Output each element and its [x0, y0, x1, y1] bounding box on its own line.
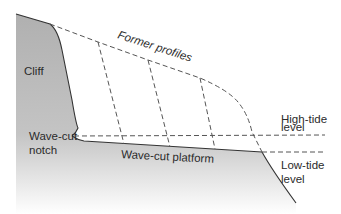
high-tide-line	[74, 135, 325, 136]
low-tide-label-line2: level	[281, 173, 305, 185]
wave-cut-notch-label-line2: notch	[29, 144, 57, 156]
wave-cut-notch-label-line1: Wave-cut	[29, 130, 78, 142]
high-tide-label-line2: level	[281, 121, 305, 133]
former-cliff-face-3	[200, 78, 215, 149]
low-tide-label-line1: Low-tide	[281, 159, 324, 171]
wave-cut-platform-diagram: Cliff Former profiles Wave-cut notch Wav…	[0, 0, 341, 214]
cliff-label: Cliff	[24, 65, 44, 77]
former-profiles-label: Former profiles	[116, 28, 193, 63]
former-cliff-face-1	[98, 42, 124, 144]
former-cliff-face-2	[148, 60, 170, 147]
